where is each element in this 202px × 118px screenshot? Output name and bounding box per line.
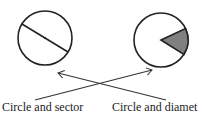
shaded-sector xyxy=(161,29,188,55)
circle-with-diameter xyxy=(18,11,72,65)
label-circle-and-diameter: Circle and diamet xyxy=(112,100,197,114)
circle-with-sector xyxy=(134,13,188,67)
arrow-sector-label-to-sector-circle xyxy=(35,70,152,100)
arrow-diameter-label-to-diameter-circle xyxy=(58,73,166,100)
label-circle-and-sector: Circle and sector xyxy=(2,100,83,114)
center-point xyxy=(44,37,46,39)
